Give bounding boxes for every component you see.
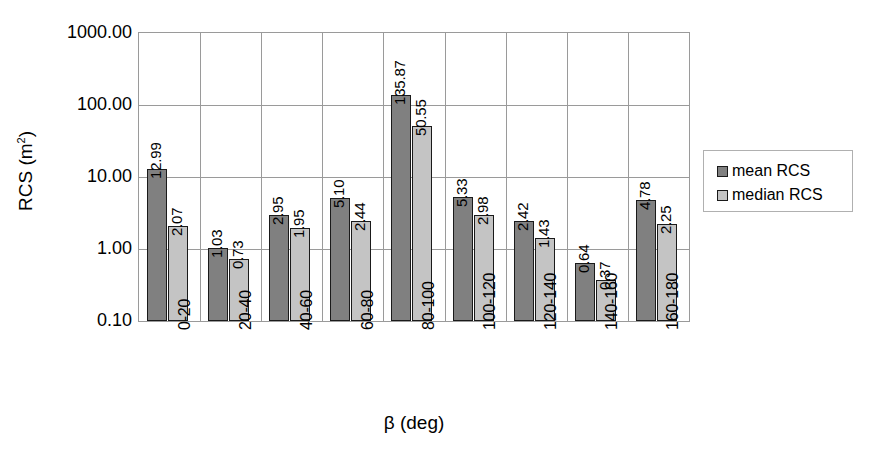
bar-group: 1.030.73 xyxy=(200,33,261,321)
x-axis-tick-label: 120-140 xyxy=(543,273,559,330)
legend-swatch-icon xyxy=(717,166,728,177)
bar-mean xyxy=(147,169,167,321)
bar-group: 135.8750.55 xyxy=(383,33,444,321)
bar-value-label: 2.98 xyxy=(475,196,490,224)
bar-value-label: 2.25 xyxy=(658,205,673,233)
x-axis-tick-label: 140-160 xyxy=(604,273,620,330)
x-axis-tick-label: 20-40 xyxy=(238,290,254,330)
x-axis-tick-label: 40-60 xyxy=(299,290,315,330)
x-axis-tick-label: 60-80 xyxy=(360,290,376,330)
x-axis-tick-label: 160-180 xyxy=(665,273,681,330)
bar-value-label: 2.42 xyxy=(515,203,530,231)
bar-value-label: 1.43 xyxy=(536,219,551,247)
bar-mean xyxy=(330,198,350,321)
bar-mean xyxy=(514,221,534,321)
x-axis-tick-label: 100-120 xyxy=(482,273,498,330)
bar-value-label: 1.95 xyxy=(291,210,306,238)
bar-value-label: 1.03 xyxy=(209,230,224,258)
bar-value-label: 0.64 xyxy=(576,245,591,273)
bar-value-label: 5.10 xyxy=(331,180,346,208)
x-axis-tick-label: 0-20 xyxy=(177,299,193,330)
y-axis-tick-label: 1.00 xyxy=(24,239,132,257)
x-axis-tick-label: 80-100 xyxy=(421,281,437,330)
bar-value-label: 50.55 xyxy=(413,100,428,137)
bar-mean xyxy=(636,200,656,321)
bar-mean xyxy=(208,248,228,321)
bar-mean xyxy=(453,197,473,321)
bar-value-label: 2.07 xyxy=(169,208,184,236)
legend-swatch-icon xyxy=(717,190,728,201)
bar-value-label: 0.73 xyxy=(230,240,245,268)
y-axis-tick-labels: 1000.00100.0010.001.000.10 xyxy=(22,0,132,451)
x-axis-title: β (deg) xyxy=(138,412,690,434)
rcs-bar-chart: RCS (m2) 1000.00100.0010.001.000.10 12.9… xyxy=(0,0,886,451)
chart-legend: mean RCSmedian RCS xyxy=(703,150,853,212)
bar-group: 12.992.07 xyxy=(139,33,200,321)
bar-value-label: 2.44 xyxy=(352,203,367,231)
y-axis-tick-label: 1000.00 xyxy=(24,23,132,41)
y-axis-tick-label: 100.00 xyxy=(24,95,132,113)
bar-value-label: 5.33 xyxy=(454,178,469,206)
legend-label: mean RCS xyxy=(732,163,810,179)
bar-value-label: 12.99 xyxy=(148,142,163,179)
legend-item[interactable]: mean RCS xyxy=(717,160,852,182)
bar-value-label: 2.95 xyxy=(270,197,285,225)
y-axis-tick-label: 10.00 xyxy=(24,167,132,185)
bar-group: 2.951.95 xyxy=(261,33,322,321)
bar-value-label: 135.87 xyxy=(392,61,407,106)
bar-value-label: 4.78 xyxy=(637,182,652,210)
legend-item[interactable]: median RCS xyxy=(717,184,852,206)
bar-mean xyxy=(269,215,289,321)
legend-label: median RCS xyxy=(732,187,823,203)
bar-mean xyxy=(391,95,411,321)
bar-group: 5.102.44 xyxy=(322,33,383,321)
y-axis-tick-label: 0.10 xyxy=(24,311,132,329)
